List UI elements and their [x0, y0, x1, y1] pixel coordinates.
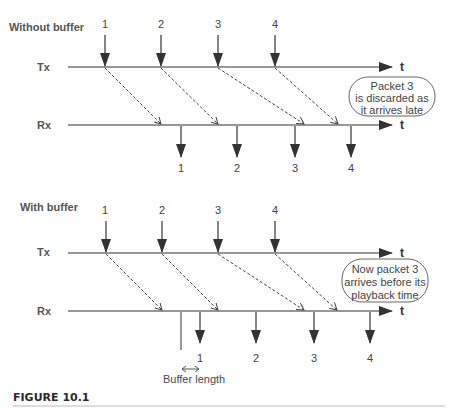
rx-time-label: t [400, 118, 404, 132]
rx-label: Rx [37, 119, 52, 131]
tx-time-label: t [400, 60, 404, 74]
tx-packet-1-label: 1 [102, 18, 108, 30]
tx-packet-2-label: 2 [158, 18, 164, 30]
note-line-1: Now packet 3 [352, 263, 419, 275]
note-line-3: playback time [351, 289, 418, 301]
with-buffer-diagram: With buffer Tx Rx t t 1 2 3 4 [20, 201, 428, 385]
rx-playback-arrows: 1 2 3 4 [197, 312, 373, 364]
transit-packet-2 [161, 68, 218, 124]
transit-packet-1 [105, 68, 161, 124]
note-line-1: Packet 3 [371, 80, 414, 92]
buffer-length-label: Buffer length [163, 373, 225, 385]
rx-packet-3-label: 3 [292, 162, 298, 174]
tx-packet-arrows: 1 2 3 4 [102, 18, 278, 66]
tx-label: Tx [37, 246, 51, 258]
playback-note-bubble: Now packet 3 arrives before its playback… [342, 259, 428, 302]
tx-packet-3-label: 3 [215, 18, 221, 30]
note-line-2: is discarded as [355, 92, 429, 104]
figure-caption: FIGURE 10.1 [13, 391, 90, 404]
transit-packet-4 [275, 254, 337, 310]
without-buffer-title: Without buffer [9, 21, 85, 33]
packet-timing-diagram: Without buffer Tx Rx t t 1 2 3 4 [0, 0, 452, 410]
transit-packet-3 [218, 254, 304, 310]
with-buffer-title: With buffer [20, 201, 79, 213]
rx-packet-4-label: 4 [367, 352, 373, 364]
transit-arrows [105, 68, 338, 124]
tx-packet-4-label: 4 [272, 18, 278, 30]
tx-packet-arrows: 1 2 3 4 [102, 204, 278, 252]
tx-packet-2-label: 2 [159, 204, 165, 216]
rx-playback-arrows: 1 2 3 4 [178, 126, 354, 174]
transit-packet-3 [218, 68, 304, 124]
tx-packet-1-label: 1 [102, 204, 108, 216]
rx-packet-1-label: 1 [197, 352, 203, 364]
tx-packet-3-label: 3 [215, 204, 221, 216]
tx-label: Tx [37, 61, 51, 73]
rx-packet-2-label: 2 [253, 352, 259, 364]
transit-arrows [106, 254, 337, 310]
transit-packet-1 [106, 254, 162, 310]
discard-note-bubble: Packet 3 is discarded as it arrives late [349, 77, 435, 116]
rx-time-label: t [400, 304, 404, 318]
tx-time-label: t [400, 246, 404, 260]
buffer-length-indicator: Buffer length [163, 366, 225, 385]
rx-packet-3-label: 3 [311, 352, 317, 364]
rx-packet-2-label: 2 [234, 162, 240, 174]
note-line-2: arrives before its [344, 276, 426, 288]
tx-packet-4-label: 4 [272, 204, 278, 216]
transit-packet-2 [162, 254, 218, 310]
without-buffer-diagram: Without buffer Tx Rx t t 1 2 3 4 [9, 18, 435, 174]
rx-label: Rx [37, 305, 52, 317]
transit-packet-4 [275, 68, 338, 124]
rx-packet-4-label: 4 [348, 162, 354, 174]
note-line-3: it arrives late [361, 104, 423, 116]
rx-packet-1-label: 1 [178, 162, 184, 174]
